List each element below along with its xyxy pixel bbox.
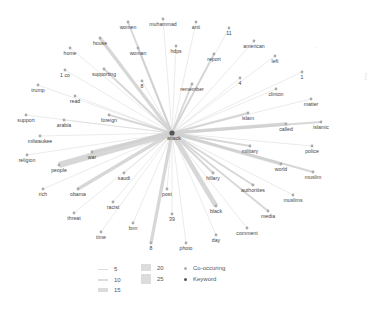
node-dot-icon	[137, 47, 140, 50]
node-dot-icon	[275, 88, 278, 91]
node-label: war	[88, 154, 97, 160]
legend-label: Keyword	[193, 276, 216, 282]
legend-weight-5: 5	[98, 266, 117, 272]
node-dot-icon	[150, 242, 153, 245]
node-dot-icon	[103, 68, 106, 71]
node-label: saudi	[118, 175, 130, 181]
legend-label: Co-occuring	[193, 265, 225, 271]
node: saudi	[118, 172, 130, 181]
node-label: women	[120, 24, 137, 30]
node: post	[162, 188, 172, 197]
node-dot-icon	[267, 210, 270, 213]
node: 11	[226, 27, 231, 36]
node: rich	[39, 188, 47, 197]
node: obama	[70, 188, 86, 197]
legend-label: 15	[114, 287, 121, 293]
node: 1	[301, 71, 304, 80]
node-dot-icon	[228, 27, 231, 30]
node-label: house	[93, 40, 107, 46]
node-dot-icon	[212, 172, 215, 175]
node-label: anti	[192, 24, 200, 30]
node-label: hdps	[170, 48, 182, 54]
node-label: black	[210, 208, 223, 214]
edge	[172, 46, 176, 133]
node-dot-icon	[141, 80, 144, 83]
legend-keyword: Keyword	[184, 276, 216, 282]
node-label: home	[64, 50, 77, 56]
node-dot-icon	[108, 114, 111, 117]
node-dot-icon	[77, 188, 80, 191]
node: black	[210, 205, 223, 214]
node-label: threat	[67, 215, 81, 221]
artifact-mark: ·	[314, 44, 316, 51]
node-label: called	[279, 126, 293, 132]
node-dot-icon	[280, 163, 283, 166]
node-label: hillary	[206, 175, 220, 181]
node-label: obama	[70, 191, 86, 197]
node: hillary	[206, 172, 220, 181]
legend-label: 20	[157, 265, 164, 271]
node: report	[207, 53, 221, 62]
node-label: religion	[19, 157, 36, 163]
legend-label: 10	[114, 277, 121, 283]
node-dot-icon	[91, 151, 94, 154]
node-label: 1 co	[60, 72, 70, 78]
node-label: 8	[150, 245, 153, 251]
node: matter	[304, 98, 319, 107]
node-dot-icon	[185, 242, 188, 245]
edge	[138, 48, 172, 133]
node: muslims	[283, 194, 302, 203]
node: trump	[31, 84, 44, 93]
legend-weight-10: 10	[98, 277, 121, 283]
edge	[172, 54, 214, 133]
node-dot-icon	[39, 135, 42, 138]
node-dot-icon	[274, 55, 277, 58]
node-label: left	[272, 58, 279, 64]
node-label: authorities	[241, 187, 265, 193]
weight-swatch	[141, 274, 151, 284]
node: comment	[236, 227, 258, 236]
node-label: clinton	[269, 91, 284, 97]
node-label: islamic	[313, 124, 329, 130]
node: clinton	[269, 88, 284, 97]
keyword-dot-icon	[184, 278, 187, 281]
node-dot-icon	[301, 71, 304, 74]
node-dot-icon	[127, 21, 130, 24]
node-label: islam	[242, 115, 254, 121]
node-dot-icon	[166, 188, 169, 191]
node: left	[272, 55, 279, 64]
legend: 5 10 15 20 25 Co-occuring Keyword	[98, 266, 298, 306]
node: authorities	[241, 184, 265, 193]
node-label: matter	[304, 101, 319, 107]
node: woman	[130, 47, 147, 56]
node: hdps	[170, 45, 182, 54]
node: anti	[192, 21, 200, 30]
legend-weight-25: 25	[141, 274, 164, 284]
node: time	[96, 231, 106, 240]
node-dot-icon	[69, 47, 72, 50]
node: read	[70, 95, 80, 104]
weight-swatch	[98, 279, 108, 281]
node-dot-icon	[162, 18, 165, 21]
artifact-mark: ʃ	[365, 72, 367, 79]
node-label: american	[243, 43, 264, 49]
node-label: bnn	[129, 225, 138, 231]
edge	[70, 48, 172, 133]
node: women	[120, 21, 137, 30]
node-label: time	[96, 234, 106, 240]
node-dot-icon	[249, 145, 252, 148]
node-label: muslim	[305, 174, 321, 180]
node-label: muhammad	[149, 21, 177, 27]
node-label: 11	[226, 30, 231, 36]
node-dot-icon	[73, 212, 76, 215]
node-dot-icon	[112, 201, 115, 204]
node-label: read	[70, 98, 80, 104]
node-dot-icon	[215, 234, 218, 237]
node-label: report	[207, 56, 221, 62]
node-label: media	[261, 213, 275, 219]
co-occurrence-network: womenmuhammadanti11housewomanhdpsamerica…	[0, 0, 388, 309]
node: racist	[107, 201, 120, 210]
node-label: arabia	[57, 122, 72, 128]
legend-label: 5	[114, 266, 117, 272]
node-label: supporting	[92, 71, 116, 77]
